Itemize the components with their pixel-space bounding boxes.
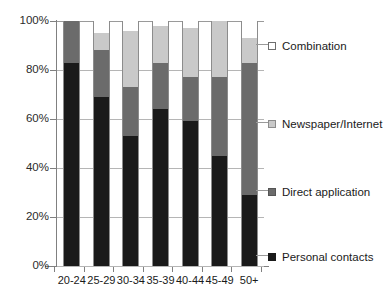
y-axis-label: 100%: [20, 15, 49, 27]
x-axis-tick: [261, 267, 262, 272]
legend-label: Newspaper/Internet: [282, 118, 382, 130]
x-axis-tick: [54, 267, 55, 272]
legend-label: Combination: [282, 40, 347, 52]
x-axis-tick: [113, 267, 114, 272]
stacked-bar-chart: 0%20%40%60%80%100% 20-2425-2930-3435-394…: [0, 0, 391, 304]
legend-label: Direct application: [282, 186, 370, 198]
bar-segment-comb[interactable]: [241, 21, 258, 38]
bar-30-34[interactable]: [122, 21, 139, 266]
x-axis-tick: [202, 267, 203, 272]
bar-25-29[interactable]: [93, 21, 110, 266]
y-axis-label: 40%: [26, 162, 49, 174]
chart-legend: CombinationNewspaper/InternetDirect appl…: [268, 0, 391, 304]
bar-segment-news[interactable]: [93, 33, 110, 50]
bar-segment-direct[interactable]: [152, 63, 169, 110]
y-axis-tick: [50, 119, 56, 120]
legend-swatch-icon: [268, 42, 276, 50]
legend-item-news[interactable]: Newspaper/Internet: [268, 118, 382, 130]
bar-35-39[interactable]: [152, 21, 169, 266]
bar-segment-comb[interactable]: [182, 21, 199, 28]
y-axis-tick: [50, 21, 56, 22]
legend-swatch-icon: [268, 120, 276, 128]
y-axis-label: 60%: [26, 113, 49, 125]
legend-swatch-icon: [268, 253, 276, 261]
bar-20-24[interactable]: [63, 21, 80, 266]
y-axis-label: 80%: [26, 64, 49, 76]
bar-segment-direct[interactable]: [93, 50, 110, 97]
bar-segment-comb[interactable]: [93, 21, 110, 33]
bar-segment-direct[interactable]: [182, 77, 199, 121]
bar-segment-personal[interactable]: [182, 121, 199, 266]
x-axis-label-50+: 50+: [225, 274, 273, 286]
legend-item-comb[interactable]: Combination: [268, 40, 347, 52]
bar-segment-personal[interactable]: [122, 136, 139, 266]
bar-segment-comb[interactable]: [122, 21, 139, 31]
y-axis-label: 0%: [32, 260, 49, 272]
y-axis-tick: [50, 168, 56, 169]
bar-segment-personal[interactable]: [211, 156, 228, 266]
plot-area: [57, 21, 264, 266]
bar-segment-personal[interactable]: [93, 97, 110, 266]
bar-50+[interactable]: [241, 21, 258, 266]
x-axis-tick: [84, 267, 85, 272]
legend-connector-line: [256, 44, 268, 45]
bar-segment-direct[interactable]: [211, 77, 228, 155]
x-axis-tick: [172, 267, 173, 272]
bar-segment-direct[interactable]: [63, 21, 80, 63]
bar-segment-news[interactable]: [241, 38, 258, 63]
bar-segment-news[interactable]: [122, 31, 139, 87]
bar-segment-news[interactable]: [152, 26, 169, 63]
legend-connector-line: [256, 255, 268, 256]
bar-40-44[interactable]: [182, 21, 199, 266]
y-axis-tick: [50, 217, 56, 218]
x-axis-tick: [231, 267, 232, 272]
bar-45-49[interactable]: [211, 21, 228, 266]
gridline: [57, 266, 264, 267]
y-axis-label: 20%: [26, 211, 49, 223]
x-axis-tick: [143, 267, 144, 272]
bar-segment-comb[interactable]: [152, 21, 169, 26]
bar-segment-direct[interactable]: [122, 87, 139, 136]
bar-segment-news[interactable]: [211, 21, 228, 77]
y-axis-tick: [50, 70, 56, 71]
legend-label: Personal contacts: [282, 251, 373, 263]
legend-connector-line: [256, 122, 268, 123]
legend-item-personal[interactable]: Personal contacts: [268, 251, 373, 263]
bar-segment-direct[interactable]: [241, 63, 258, 195]
bar-segment-personal[interactable]: [152, 109, 169, 266]
bar-segment-news[interactable]: [182, 28, 199, 77]
legend-swatch-icon: [268, 188, 276, 196]
y-axis-tick: [50, 266, 56, 267]
legend-item-direct[interactable]: Direct application: [268, 186, 370, 198]
legend-connector-line: [256, 190, 268, 191]
bar-segment-personal[interactable]: [63, 63, 80, 266]
